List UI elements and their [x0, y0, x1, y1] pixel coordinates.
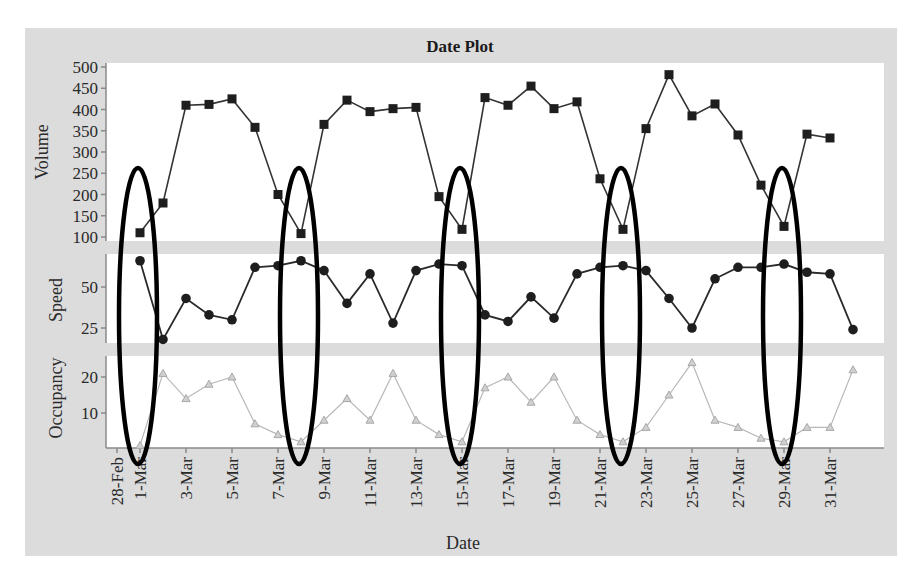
speed-marker	[296, 256, 306, 266]
speed-marker	[480, 310, 490, 320]
x-tick-label: 25-Mar	[683, 457, 702, 508]
speed-marker	[549, 313, 559, 323]
speed-marker	[250, 263, 260, 273]
y-tick-label: 450	[73, 79, 99, 98]
y-tick-label: 100	[73, 228, 99, 247]
y-tick-label: 150	[73, 207, 99, 226]
speed-marker	[388, 318, 398, 328]
y-tick-label: 500	[73, 58, 99, 77]
speed-marker	[227, 315, 237, 325]
volume-marker	[826, 133, 835, 142]
speed-marker	[848, 325, 858, 335]
x-tick-label: 21-Mar	[591, 457, 610, 508]
speed-panel	[106, 254, 884, 343]
x-tick-label: 28-Feb	[108, 457, 127, 505]
volume-marker	[688, 111, 697, 120]
speed-marker	[411, 266, 421, 276]
chart-title: Date Plot	[426, 37, 494, 56]
x-tick-label: 13-Mar	[407, 457, 426, 508]
volume-marker	[550, 104, 559, 113]
x-tick-label: 17-Mar	[499, 457, 518, 508]
speed-marker	[526, 292, 536, 302]
speed-marker	[457, 261, 467, 271]
volume-marker	[711, 99, 720, 108]
volume-marker	[596, 174, 605, 183]
volume-marker	[343, 96, 352, 105]
speed-marker	[342, 299, 352, 309]
speed-axis-title: Speed	[46, 278, 66, 322]
volume-marker	[320, 120, 329, 129]
volume-marker	[435, 192, 444, 201]
speed-marker	[664, 294, 674, 304]
volume-marker	[274, 190, 283, 199]
speed-marker	[825, 269, 835, 279]
volume-marker	[573, 97, 582, 106]
volume-marker	[734, 131, 743, 140]
volume-marker	[757, 181, 766, 190]
volume-marker	[481, 93, 490, 102]
y-tick-label: 50	[81, 278, 98, 297]
speed-marker	[365, 269, 375, 279]
volume-marker	[642, 124, 651, 133]
volume-marker	[780, 222, 789, 231]
volume-marker	[297, 229, 306, 238]
speed-marker	[204, 310, 214, 320]
volume-marker	[205, 100, 214, 109]
y-tick-label: 400	[73, 101, 99, 120]
y-tick-label: 10	[81, 404, 98, 423]
volume-marker	[803, 130, 812, 139]
x-tick-label: 11-Mar	[361, 457, 380, 508]
speed-marker	[503, 317, 513, 327]
volume-marker	[366, 107, 375, 116]
y-tick-label: 350	[73, 122, 99, 141]
x-tick-label: 5-Mar	[223, 457, 242, 500]
date-plot-chart: Date Plot Volume Speed Occupancy Date 10…	[0, 0, 914, 582]
y-tick-label: 20	[81, 368, 98, 387]
speed-marker	[158, 335, 168, 345]
volume-marker	[458, 225, 467, 234]
volume-marker	[412, 103, 421, 112]
x-tick-label: 31-Mar	[821, 457, 840, 508]
x-tick-label: 19-Mar	[545, 457, 564, 508]
x-tick-label: 27-Mar	[729, 457, 748, 508]
speed-marker	[779, 259, 789, 269]
speed-marker	[641, 266, 651, 276]
x-tick-label: 7-Mar	[269, 457, 288, 500]
volume-marker	[159, 199, 168, 208]
speed-marker	[733, 263, 743, 273]
speed-marker	[572, 269, 582, 279]
volume-marker	[504, 101, 513, 110]
y-tick-label: 300	[73, 143, 99, 162]
volume-axis-title: Volume	[32, 124, 52, 180]
x-tick-label: 23-Mar	[637, 457, 656, 508]
volume-marker	[228, 94, 237, 103]
speed-marker	[618, 261, 628, 271]
volume-marker	[389, 104, 398, 113]
volume-marker	[619, 225, 628, 234]
x-tick-label: 3-Mar	[177, 457, 196, 500]
speed-marker	[181, 294, 191, 304]
y-tick-label: 25	[81, 319, 98, 338]
volume-marker	[665, 70, 674, 79]
volume-marker	[136, 228, 145, 237]
speed-marker	[135, 256, 145, 266]
volume-marker	[527, 82, 536, 91]
volume-marker	[182, 101, 191, 110]
speed-marker	[802, 267, 812, 277]
speed-marker	[319, 266, 329, 276]
x-axis-title: Date	[446, 533, 480, 553]
volume-marker	[251, 123, 260, 132]
x-tick-label: 9-Mar	[315, 457, 334, 500]
speed-marker	[710, 274, 720, 284]
occupancy-axis-title: Occupancy	[46, 358, 66, 439]
y-tick-label: 250	[73, 164, 99, 183]
speed-marker	[687, 323, 697, 333]
y-tick-label: 200	[73, 186, 99, 205]
